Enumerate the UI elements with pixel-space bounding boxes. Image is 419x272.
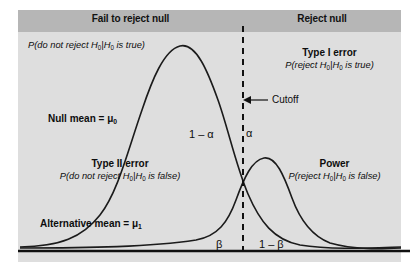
label-one-minus-beta: 1 – β <box>259 238 284 252</box>
label-p-do-not-reject-given-false: P(do not reject H0|H0 is false) <box>35 171 205 183</box>
figure-root: Fail to reject null Reject null P(do not… <box>0 0 419 272</box>
label-one-minus-alpha: 1 – α <box>189 128 214 142</box>
header-label-fail-to-reject-null: Fail to reject null <box>18 13 243 24</box>
label-null-mean: Null mean = μ0 <box>48 113 117 126</box>
label-cutoff: Cutoff <box>272 94 299 107</box>
label-power-title: Power <box>272 158 397 171</box>
label-type-2-error-title: Type II error <box>35 158 205 171</box>
label-beta: β <box>216 238 222 252</box>
label-alternative-mean: Alternative mean = μ1 <box>40 218 142 231</box>
header-label-reject-null: Reject null <box>243 13 401 24</box>
label-p-reject-given-true: P(reject H0|H0 is true) <box>262 60 397 72</box>
label-type-1-error-title: Type I error <box>262 47 397 60</box>
label-p-do-not-reject-given-true: P(do not reject H0|H0 is true) <box>28 40 145 52</box>
label-alpha: α <box>246 127 252 141</box>
decision-header-band: Fail to reject null Reject null <box>18 10 401 32</box>
label-p-reject-given-false: P(reject H0|H0 is false) <box>272 171 397 183</box>
